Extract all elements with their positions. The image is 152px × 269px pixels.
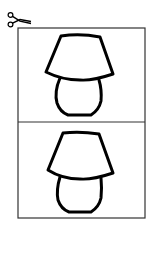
scissors-icon (8, 13, 31, 27)
cut-out-worksheet (0, 0, 152, 269)
cut-frame (18, 28, 145, 218)
lamp-picture-top (46, 35, 113, 115)
lamp-picture-bottom (48, 132, 113, 212)
